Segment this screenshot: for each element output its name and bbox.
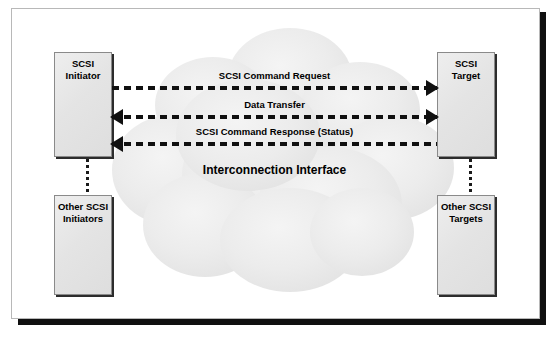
node-scsi-target: SCSI Target [437, 52, 495, 157]
page-shadow-right [540, 12, 546, 325]
flow-scsi-command-request: SCSI Command Request [112, 70, 437, 100]
arrow-left-icon-2 [110, 136, 123, 152]
diagram-screenshot: SCSI Initiator SCSI Target Other SCSI In… [0, 0, 553, 337]
flow-line-2 [112, 142, 437, 146]
node-other-scsi-initiators: Other SCSI Initiators [54, 195, 112, 295]
node-scsi-target-line2: Target [438, 70, 494, 82]
connector-targets-dotted [469, 159, 472, 193]
page-shadow-bottom [18, 319, 546, 325]
arrow-right-icon-0 [426, 80, 439, 96]
node-other-scsi-initiators-line1: Other SCSI [55, 201, 111, 213]
node-other-scsi-targets-line2: Targets [438, 213, 494, 225]
node-other-scsi-initiators-line2: Initiators [55, 213, 111, 225]
arrow-left-icon-1 [110, 109, 123, 125]
flow-label-2: SCSI Command Response (Status) [112, 126, 437, 137]
node-scsi-initiator-line2: Initiator [55, 70, 111, 82]
flow-line-0 [112, 86, 437, 90]
flow-data-transfer: Data Transfer [112, 99, 437, 129]
flow-line-1 [112, 115, 437, 119]
flow-label-1: Data Transfer [112, 99, 437, 110]
flow-label-0: SCSI Command Request [112, 70, 437, 81]
node-other-scsi-targets: Other SCSI Targets [437, 195, 495, 295]
node-scsi-initiator: SCSI Initiator [54, 52, 112, 157]
node-scsi-initiator-line1: SCSI [55, 58, 111, 70]
connector-initiators-dotted [86, 159, 89, 193]
arrow-right-icon-1 [426, 109, 439, 125]
node-scsi-target-line1: SCSI [438, 58, 494, 70]
node-other-scsi-targets-line1: Other SCSI [438, 201, 494, 213]
cloud-label: Interconnection Interface [112, 163, 437, 177]
flow-scsi-command-response: SCSI Command Response (Status) [112, 126, 437, 156]
